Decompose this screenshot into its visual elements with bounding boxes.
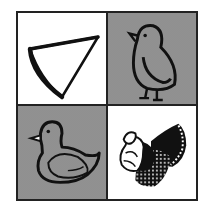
chick-icon xyxy=(108,13,196,104)
turkey-icon xyxy=(108,106,196,199)
cell-top-right[interactable] xyxy=(108,13,196,106)
picture-grid xyxy=(16,11,198,201)
cell-bottom-right[interactable] xyxy=(108,106,196,199)
cell-top-left[interactable] xyxy=(18,13,108,106)
duck-icon xyxy=(18,106,106,199)
cell-bottom-left[interactable] xyxy=(18,106,108,199)
cone-wedge-icon xyxy=(18,13,106,104)
